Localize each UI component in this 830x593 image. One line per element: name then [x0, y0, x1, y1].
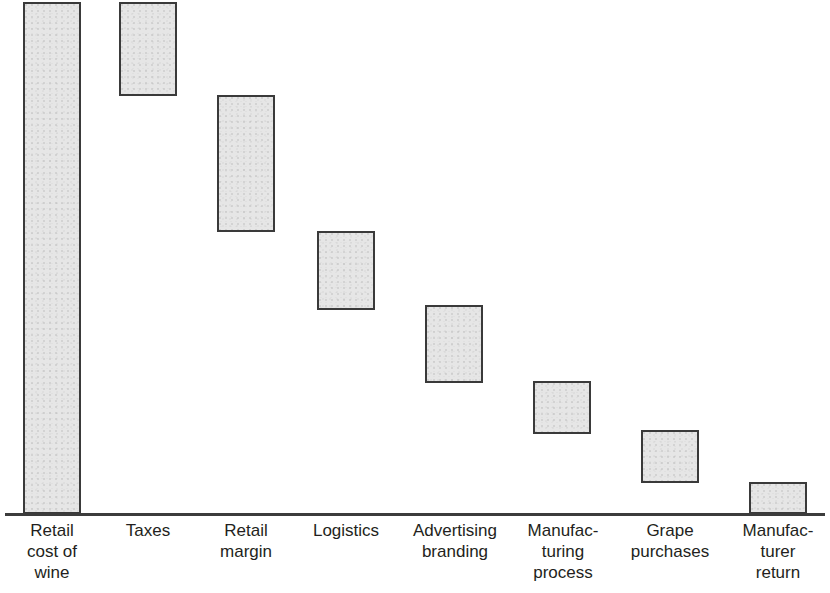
waterfall-chart: Retail cost of wine Taxes Retail margin … [0, 0, 830, 593]
bar-manufacturer-return [749, 482, 807, 514]
bar-retail-margin [217, 95, 275, 232]
bar-manufacturing-process [533, 381, 591, 434]
x-label-manufacturer-return: Manufac- turer return [718, 520, 830, 583]
x-label-manufacturing-process: Manufac- turing process [503, 520, 623, 583]
plot-area [0, 0, 830, 516]
x-label-advertising-branding: Advertising branding [395, 520, 515, 562]
x-label-logistics: Logistics [286, 520, 406, 541]
bar-grape-purchases [641, 430, 699, 483]
bar-retail-cost-of-wine [23, 2, 81, 514]
x-label-grape-purchases: Grape purchases [610, 520, 730, 562]
bar-advertising-branding [425, 305, 483, 383]
x-axis-baseline [5, 513, 825, 516]
bar-logistics [317, 231, 375, 310]
x-axis-labels: Retail cost of wine Taxes Retail margin … [0, 520, 830, 593]
bar-taxes [119, 2, 177, 96]
